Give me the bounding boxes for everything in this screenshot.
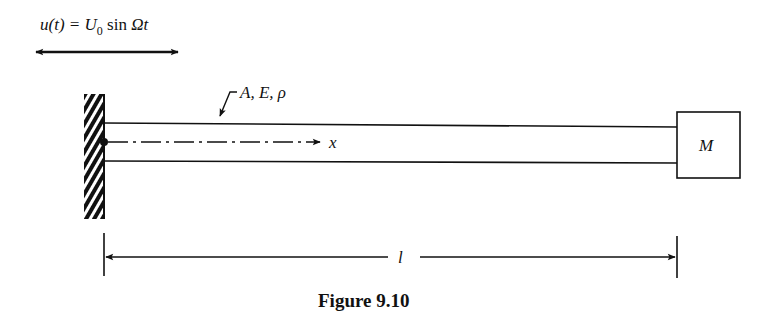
mass-label: M <box>698 136 714 155</box>
fixed-wall-icon <box>84 94 104 219</box>
beam-properties-leader: A, E, ρ <box>220 83 286 116</box>
excitation-label: u(t) = U0 sin Ωt <box>40 15 149 38</box>
figure-caption: Figure 9.10 <box>318 290 409 311</box>
length-label: l <box>398 248 403 267</box>
svg-text:A, E, ρ: A, E, ρ <box>239 83 286 102</box>
beam <box>104 123 677 163</box>
origin-point-icon <box>100 138 108 146</box>
svg-text:u(t) = U0 sin Ωt: u(t) = U0 sin Ωt <box>40 15 149 38</box>
x-axis-label: x <box>328 133 337 152</box>
length-dimension: l <box>104 233 677 278</box>
cantilever-diagram: u(t) = U0 sin Ωt x A, E, ρ M l Figure 9.… <box>0 0 777 318</box>
